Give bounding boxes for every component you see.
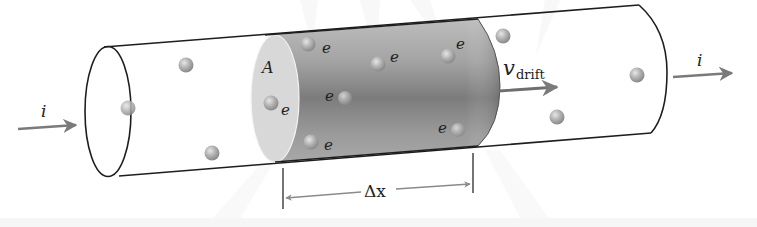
electron-sphere bbox=[264, 96, 279, 111]
current-out-arrow: i bbox=[673, 50, 732, 77]
electron-sphere bbox=[179, 58, 194, 73]
electron-sphere bbox=[371, 57, 386, 72]
drift-velocity-label: v bbox=[503, 56, 515, 80]
electron-label: e bbox=[322, 39, 331, 57]
current-in-wire-diagram: e e e e e e e A i i v drift Δx bbox=[0, 0, 757, 227]
electron-label: e bbox=[281, 101, 290, 119]
current-out-label: i bbox=[697, 50, 702, 70]
electron-sphere bbox=[441, 49, 456, 64]
bottom-band bbox=[0, 218, 757, 227]
electron-sphere bbox=[205, 146, 220, 161]
current-in-arrow: i bbox=[18, 101, 76, 129]
delta-x-dimension: Δx bbox=[283, 153, 473, 209]
electron-label: e bbox=[324, 136, 333, 154]
electron-label: e bbox=[438, 119, 447, 137]
electron-sphere bbox=[496, 29, 511, 44]
drift-velocity-arrow: v drift bbox=[499, 56, 557, 91]
electron-label: e bbox=[456, 35, 465, 53]
electron-label: e bbox=[325, 87, 334, 105]
electron-sphere bbox=[451, 123, 465, 137]
electron-sphere bbox=[630, 68, 645, 83]
electron-sphere bbox=[301, 37, 316, 52]
electron-sphere bbox=[338, 91, 352, 105]
drift-velocity-subscript: drift bbox=[516, 67, 546, 82]
delta-x-label: Δx bbox=[364, 181, 386, 201]
area-label: A bbox=[260, 58, 274, 77]
electron-sphere bbox=[550, 110, 565, 125]
current-in-label: i bbox=[41, 101, 46, 121]
electron-sphere bbox=[304, 135, 319, 150]
electron-label: e bbox=[390, 48, 399, 66]
electron-sphere bbox=[121, 101, 136, 116]
